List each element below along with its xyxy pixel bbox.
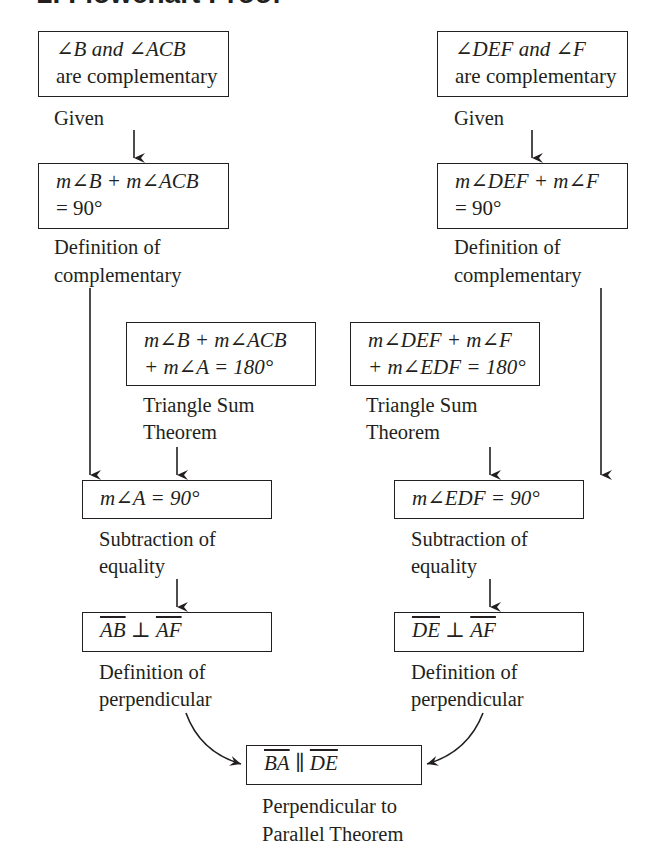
reason-label: equality <box>99 552 165 580</box>
reason-label: Theorem <box>143 418 217 446</box>
conclusion-box: BA ∥ DE <box>246 745 422 785</box>
segment-ba: BA <box>264 751 290 775</box>
segment-af: AF <box>156 618 182 642</box>
reason-label: complementary <box>54 261 182 289</box>
reason-label: Parallel Theorem <box>262 820 403 848</box>
segment-de: DE <box>310 751 338 775</box>
statement-box-left-5: AB ⊥ AF <box>82 612 272 652</box>
statement-box-right-2: m∠DEF + m∠F = 90° <box>437 163 628 229</box>
statement-box-left-1: ∠B and ∠ACB are complementary <box>38 31 229 97</box>
segment-ab: AB <box>100 618 126 642</box>
reason-label: Theorem <box>366 418 440 446</box>
statement-box-left-3: m∠B + m∠ACB + m∠A = 180° <box>126 322 316 386</box>
statement-box-right-1: ∠DEF and ∠F are complementary <box>437 31 628 97</box>
reason-label: Triangle Sum <box>143 391 254 419</box>
perpendicular-symbol: ⊥ <box>126 618 156 642</box>
statement-box-right-3: m∠DEF + m∠F + m∠EDF = 180° <box>350 322 540 386</box>
statement-box-left-2: m∠B + m∠ACB = 90° <box>38 163 229 229</box>
statement-line: m∠B + m∠ACB <box>56 168 228 195</box>
reason-label: complementary <box>454 261 582 289</box>
statement-line: ∠DEF and ∠F <box>455 36 627 63</box>
reason-label: Given <box>454 104 504 132</box>
parallel-symbol: ∥ <box>290 751 310 775</box>
statement-line: are complementary <box>56 63 228 90</box>
statement-line: ∠B and ∠ACB <box>56 36 228 63</box>
reason-label: Perpendicular to <box>262 792 397 820</box>
reason-label: Triangle Sum <box>366 391 477 419</box>
reason-label: equality <box>411 552 477 580</box>
reason-label: Subtraction of <box>99 525 216 553</box>
statement-box-right-5: DE ⊥ AF <box>394 612 584 652</box>
statement-box-left-4: m∠A = 90° <box>82 480 272 519</box>
statement-line: m∠B + m∠ACB <box>144 327 315 354</box>
statement-line: + m∠EDF = 180° <box>368 354 539 381</box>
segment-de: DE <box>412 618 440 642</box>
perpendicular-symbol: ⊥ <box>440 618 470 642</box>
statement-line: are complementary <box>455 63 627 90</box>
statement-line: m∠EDF = 90° <box>412 485 583 512</box>
statement-line: = 90° <box>56 195 228 222</box>
reason-label: perpendicular <box>99 685 212 713</box>
statement-line: m∠A = 90° <box>100 485 271 512</box>
statement-line: + m∠A = 180° <box>144 354 315 381</box>
statement-line: = 90° <box>455 195 627 222</box>
reason-label: Definition of <box>99 658 205 686</box>
reason-label: Definition of <box>411 658 517 686</box>
statement-line: m∠DEF + m∠F <box>455 168 627 195</box>
reason-label: Given <box>54 104 104 132</box>
reason-label: Definition of <box>54 233 160 261</box>
statement-box-right-4: m∠EDF = 90° <box>394 480 584 519</box>
statement-line: m∠DEF + m∠F <box>368 327 539 354</box>
reason-label: Definition of <box>454 233 560 261</box>
reason-label: perpendicular <box>411 685 524 713</box>
segment-af: AF <box>470 618 496 642</box>
reason-label: Subtraction of <box>411 525 528 553</box>
